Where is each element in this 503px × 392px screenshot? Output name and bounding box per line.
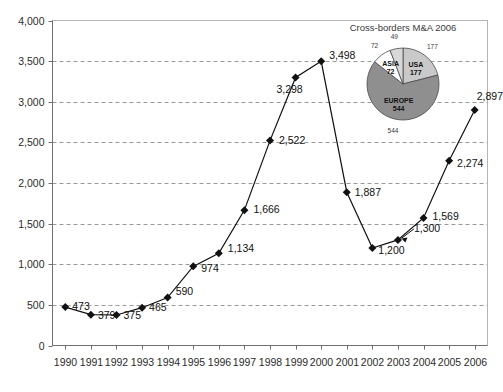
x-tick-label: 1992 — [105, 356, 129, 368]
x-tick-label: 2006 — [464, 356, 488, 368]
x-tick-label: 1990 — [54, 356, 78, 368]
x-tick-label: 2002 — [361, 356, 385, 368]
y-tick-label: 0 — [39, 340, 45, 352]
y-tick-label: 1,000 — [18, 258, 44, 270]
x-tick-label: 1997 — [233, 356, 257, 368]
x-tick-label: 1991 — [80, 356, 104, 368]
y-tick-label: 3,500 — [18, 55, 44, 67]
data-point-label: 1,200 — [378, 244, 404, 256]
y-tick-label: 2,500 — [18, 136, 44, 148]
data-point-label: 379 — [98, 309, 116, 321]
pie-outer-label: 49 — [391, 33, 399, 40]
x-tick-label: 2004 — [413, 356, 437, 368]
data-point-label: 3,498 — [329, 49, 355, 61]
pie-slice-value: 177 — [410, 69, 422, 76]
data-point-label: 473 — [72, 300, 90, 312]
pie-slice-value: 72 — [387, 68, 395, 75]
pie-slice-value: 544 — [393, 105, 405, 112]
pie-outer-label: 72 — [371, 42, 379, 49]
y-tick-label: 4,000 — [18, 15, 44, 27]
pie-outer-label: 177 — [427, 43, 438, 50]
data-point-label: 2,274 — [457, 157, 483, 169]
pie-title: Cross-borders M&A 2006 — [350, 22, 457, 33]
x-axis-tick-labels: 1990199119921993199419951996199719981999… — [54, 356, 488, 368]
pie-slice-name: EUROPE — [384, 97, 414, 104]
x-tick-label: 2005 — [438, 356, 462, 368]
x-tick-label: 2003 — [387, 356, 411, 368]
y-tick-label: 2,000 — [18, 177, 44, 189]
chart-canvas: 05001,0001,5002,0002,5003,0003,5004,000 … — [0, 0, 503, 392]
data-point-label: 974 — [201, 262, 219, 274]
pie-slice-name: ASIA — [382, 60, 399, 67]
data-point-label: 465 — [149, 301, 167, 313]
x-tick-label: 1998 — [259, 356, 283, 368]
data-point-label: 590 — [176, 285, 194, 297]
data-point-label: 1,569 — [433, 210, 459, 222]
y-tick-label: 1,500 — [18, 218, 44, 230]
x-tick-label: 1995 — [182, 356, 206, 368]
pie-slice-name: USA — [408, 61, 423, 68]
data-point-label: 2,897 — [477, 90, 503, 102]
x-tick-label: 1996 — [208, 356, 232, 368]
y-tick-label: 500 — [27, 299, 45, 311]
data-point-label: 1,887 — [355, 186, 381, 198]
x-tick-label: 1994 — [157, 356, 181, 368]
x-tick-label: 1999 — [285, 356, 309, 368]
x-tick-label: 1993 — [131, 356, 155, 368]
data-point-label: 3,298 — [276, 83, 302, 95]
data-point-label: 1,666 — [253, 203, 279, 215]
data-point-label: 1,134 — [228, 242, 254, 254]
x-tick-label: 2001 — [336, 356, 360, 368]
data-point-label: 375 — [123, 309, 141, 321]
y-tick-label: 3,000 — [18, 96, 44, 108]
line-chart-with-pie-inset: 05001,0001,5002,0002,5003,0003,5004,000 … — [0, 0, 503, 392]
data-point-label: 2,522 — [279, 134, 305, 146]
data-point-label: 1,300 — [414, 222, 440, 234]
pie-outer-label: 544 — [388, 127, 399, 134]
x-tick-label: 2000 — [310, 356, 334, 368]
